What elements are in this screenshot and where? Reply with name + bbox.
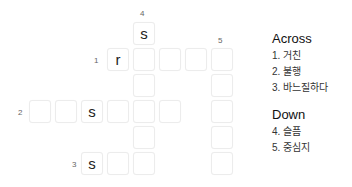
grid-cell[interactable]	[55, 100, 77, 123]
grid-cell[interactable]	[133, 126, 155, 149]
grid-cell[interactable]: s	[81, 100, 103, 123]
grid-cell[interactable]: r	[107, 48, 129, 71]
clue-number-label: 5	[218, 36, 222, 45]
grid-cell[interactable]	[159, 100, 181, 123]
grid-cell[interactable]	[107, 152, 129, 175]
clues-panel: Across 1. 거친 2. 불행 3. 바느질하다 Down 4. 슬픔 5…	[272, 30, 352, 156]
clue-number-label: 2	[18, 108, 22, 117]
down-clue-4[interactable]: 4. 슬픔	[272, 124, 352, 140]
grid-cell[interactable]	[133, 48, 155, 71]
across-clue-2[interactable]: 2. 불행	[272, 64, 352, 80]
grid-cell[interactable]	[29, 100, 51, 123]
grid-cell[interactable]	[133, 100, 155, 123]
grid-cell[interactable]	[211, 74, 233, 97]
grid-cell[interactable]	[107, 100, 129, 123]
clue-number-label: 1	[94, 56, 98, 65]
grid-cell[interactable]	[133, 74, 155, 97]
grid-cell[interactable]: s	[133, 22, 155, 45]
clue-number-label: 3	[72, 160, 76, 169]
down-clue-5[interactable]: 5. 중심지	[272, 140, 352, 156]
grid-cell[interactable]	[185, 48, 207, 71]
grid-cell[interactable]	[159, 48, 181, 71]
across-heading: Across	[272, 30, 352, 48]
across-clue-3[interactable]: 3. 바느질하다	[272, 80, 352, 96]
across-clue-1[interactable]: 1. 거친	[272, 48, 352, 64]
grid-cell[interactable]	[133, 152, 155, 175]
grid-cell[interactable]	[211, 126, 233, 149]
grid-cell[interactable]	[211, 152, 233, 175]
grid-cell[interactable]	[211, 100, 233, 123]
grid-cell[interactable]: s	[81, 152, 103, 175]
grid-cell[interactable]	[211, 48, 233, 71]
crossword-grid: srss45123	[0, 0, 250, 187]
down-heading: Down	[272, 106, 352, 124]
clue-number-label: 4	[140, 9, 144, 18]
